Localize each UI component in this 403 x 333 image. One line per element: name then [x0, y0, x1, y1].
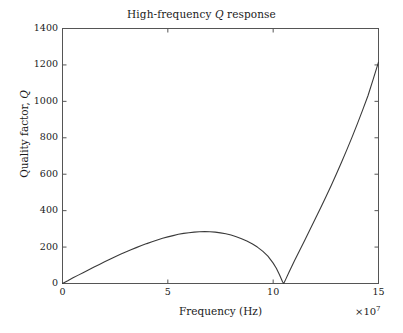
data-series-line	[63, 62, 379, 283]
plot-area	[0, 0, 403, 333]
axes-box	[63, 29, 379, 284]
figure-canvas: High-frequency Q response Quality factor…	[0, 0, 403, 333]
axis-ticks	[63, 29, 379, 284]
